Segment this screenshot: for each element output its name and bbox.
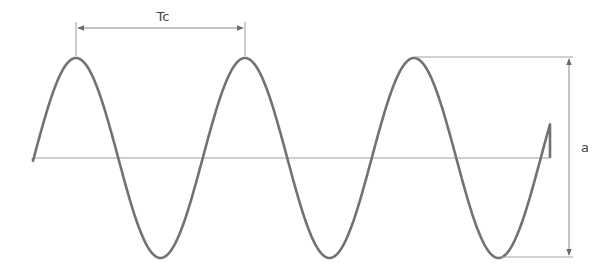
period-label: Tc	[156, 9, 170, 24]
amplitude-dimension: a	[415, 57, 589, 257]
period-dimension: Tc	[76, 9, 245, 56]
amplitude-label: a	[581, 140, 589, 155]
sine-wave-diagram: Tc a	[0, 0, 608, 274]
